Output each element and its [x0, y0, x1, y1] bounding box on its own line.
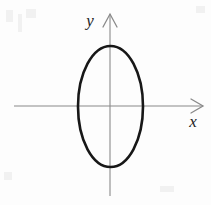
x-axis-label: x: [188, 112, 197, 131]
y-axis-group: [103, 14, 117, 196]
coordinate-plane-svg: y x: [0, 0, 211, 205]
y-axis-label: y: [84, 11, 94, 30]
figure-canvas: y x: [0, 0, 211, 205]
x-axis-group: [14, 99, 203, 113]
